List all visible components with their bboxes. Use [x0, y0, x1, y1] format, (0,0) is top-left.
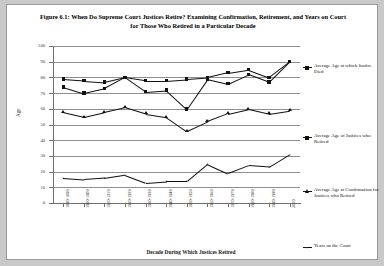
legend-marker-icon: [303, 135, 312, 140]
y-tick-label: 90: [15, 59, 45, 64]
legend-marker-icon: ×: [303, 245, 312, 250]
data-point: [123, 76, 126, 79]
data-point: [144, 111, 148, 114]
legend-label: Average Age of Justices who Retired: [314, 133, 382, 146]
x-tick-label: 1940-1949: [168, 189, 173, 208]
x-tick-mark: [269, 203, 270, 207]
x-tick-label: 1950-1959: [188, 189, 193, 208]
series-line-1: [228, 70, 249, 74]
series-line-4: [248, 165, 269, 168]
data-point: ×: [103, 176, 107, 180]
data-point: [226, 82, 229, 85]
y-tick-label: 0: [15, 200, 45, 205]
gridline: [53, 62, 300, 63]
figure-container: Figure 6.1: When Do Supreme Court Justic…: [6, 4, 378, 260]
series-line-4: [63, 178, 84, 181]
data-point: [62, 85, 65, 88]
data-point: [185, 107, 188, 110]
data-point: ×: [82, 178, 86, 182]
y-tick-mark: [49, 203, 53, 204]
data-point: [165, 88, 168, 91]
series-line-3: [63, 112, 84, 118]
y-tick-label: 40: [15, 138, 45, 143]
x-tick-label: 1930-1939: [147, 189, 152, 208]
x-tick-label: 1890-1899: [65, 189, 70, 208]
series-line-2: [207, 79, 228, 85]
y-tick-label: 20: [15, 169, 45, 174]
x-tick-label: 1910-1919: [106, 189, 111, 208]
data-point: [288, 108, 292, 111]
series-line-3: [145, 114, 166, 118]
data-point: [103, 87, 106, 90]
x-tick-label: 1990-1999: [271, 189, 276, 208]
series-line-2: [228, 74, 249, 84]
x-tick-label: 1920-1929: [127, 189, 132, 208]
legend-marker-icon: [303, 65, 312, 70]
series-line-4: [166, 181, 187, 182]
data-point: [226, 111, 230, 114]
data-point: [185, 129, 189, 132]
data-point: ×: [226, 171, 230, 175]
gridline: [53, 156, 300, 157]
x-tick-label: 1960-1969: [209, 189, 214, 208]
plot-area: ××××××××××××: [53, 46, 300, 203]
data-point: [144, 90, 147, 93]
data-point: [82, 79, 85, 82]
series-line-1: [146, 81, 167, 82]
gridline: [53, 140, 300, 141]
y-tick-label: 60: [15, 106, 45, 111]
data-point: ×: [288, 153, 292, 157]
series-line-3: [207, 114, 228, 123]
data-point: [246, 107, 250, 110]
series-line-3: [187, 121, 208, 131]
data-point: [267, 111, 271, 114]
series-line-2: [187, 79, 208, 109]
data-point: [123, 105, 127, 108]
series-line-4: [146, 181, 167, 184]
data-point: [226, 71, 229, 74]
data-point: ×: [206, 162, 210, 166]
data-point: [205, 119, 209, 122]
data-point: ×: [123, 173, 127, 177]
data-point: [144, 79, 147, 82]
gridline: [53, 109, 300, 110]
series-line-4: [187, 164, 208, 182]
x-axis-line: [53, 203, 301, 204]
data-point: ×: [267, 165, 271, 169]
data-point: [62, 77, 65, 80]
data-point: [82, 115, 86, 118]
data-point: [61, 110, 65, 113]
x-tick-mark: [228, 203, 229, 207]
data-point: [82, 91, 85, 94]
gridline: [53, 46, 300, 47]
gridline: [53, 172, 300, 173]
data-point: [267, 80, 270, 83]
data-point: ×: [164, 179, 168, 183]
legend-label: Average Age at Confirmation for Justices…: [314, 187, 382, 200]
data-point: ×: [61, 176, 65, 180]
y-tick-label: 10: [15, 185, 45, 190]
series-line-2: [269, 62, 290, 83]
x-tick-label: 1970-1979: [230, 189, 235, 208]
data-point: ×: [247, 164, 251, 168]
data-point: [103, 80, 106, 83]
series-line-4: [84, 178, 105, 181]
data-point: [102, 110, 106, 113]
data-point: ×: [144, 181, 148, 185]
gridline: [53, 187, 300, 188]
series-line-4: [228, 165, 249, 174]
series-line-1: [187, 77, 208, 80]
y-tick-label: 50: [15, 122, 45, 127]
x-tick-mark: [125, 203, 126, 207]
data-point: [165, 79, 168, 82]
y-tick-label: 80: [15, 75, 45, 80]
data-point: [206, 77, 209, 80]
data-point: [267, 76, 270, 79]
series-line-1: [166, 79, 187, 82]
y-tick-label: 100: [15, 43, 45, 48]
data-point: [288, 60, 291, 63]
data-point: ×: [185, 179, 189, 183]
x-tick-label: 1900-1909: [85, 189, 90, 208]
figure-title: Figure 6.1: When Do Supreme Court Justic…: [37, 12, 349, 30]
legend-label: Years on the Court: [314, 243, 382, 249]
